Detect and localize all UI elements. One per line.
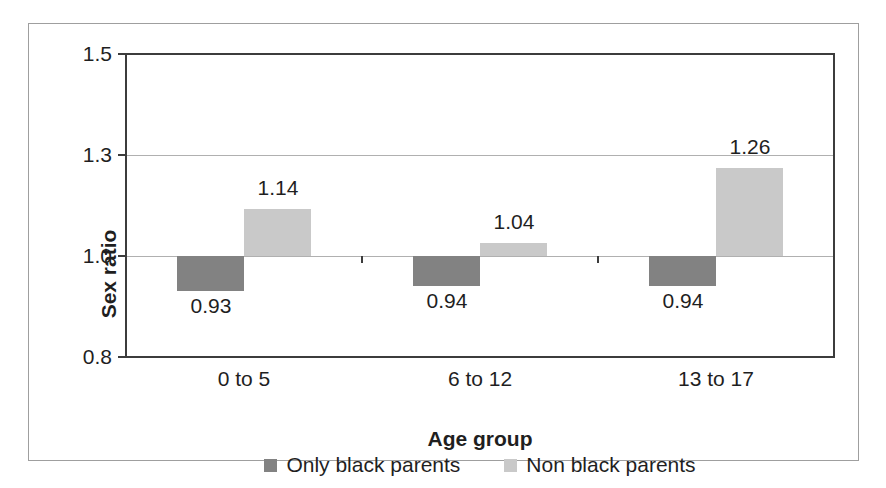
bar-dark-1 <box>413 256 480 286</box>
bar-light-1 <box>480 243 547 256</box>
x-category-label: 13 to 17 <box>646 366 786 392</box>
y-tick-label: 1.5 <box>54 41 112 67</box>
category-tick <box>597 256 599 263</box>
bar-light-2 <box>716 168 783 256</box>
bar-value-label: 1.26 <box>715 134 785 160</box>
plot-area: 0.81.01.31.50.931.140 to 50.941.046 to 1… <box>1 1 886 488</box>
legend-swatch-dark <box>264 459 277 472</box>
y-axis-title: Sex ratio <box>96 152 122 396</box>
legend-item-only-black-parents: Only black parents <box>264 452 460 478</box>
x-axis-title: Age group <box>126 426 834 452</box>
bar-value-label: 0.94 <box>648 288 718 314</box>
plot-border-top <box>125 53 835 55</box>
y-axis-tick <box>118 53 126 55</box>
bar-value-label: 0.93 <box>176 293 246 319</box>
x-category-label: 0 to 5 <box>174 366 314 392</box>
legend-label: Only black parents <box>286 452 460 478</box>
plot-border-right <box>833 53 835 358</box>
figure-border: 0.81.01.31.50.931.140 to 50.941.046 to 1… <box>28 23 859 461</box>
scanned-chart-figure: 0.81.01.31.50.931.140 to 50.941.046 to 1… <box>0 0 886 488</box>
legend-label: Non black parents <box>526 452 695 478</box>
category-tick <box>361 256 363 263</box>
legend: Only black parents Non black parents <box>126 452 834 478</box>
plot-border-bottom <box>125 356 835 358</box>
legend-swatch-light <box>504 459 517 472</box>
bar-dark-0 <box>177 256 244 291</box>
bar-dark-2 <box>649 256 716 286</box>
bar-value-label: 1.14 <box>243 175 313 201</box>
x-category-label: 6 to 12 <box>410 366 550 392</box>
bar-light-0 <box>244 209 311 256</box>
legend-item-non-black-parents: Non black parents <box>504 452 695 478</box>
bar-value-label: 1.04 <box>479 209 549 235</box>
bar-value-label: 0.94 <box>412 288 482 314</box>
y-axis-line <box>125 53 127 358</box>
